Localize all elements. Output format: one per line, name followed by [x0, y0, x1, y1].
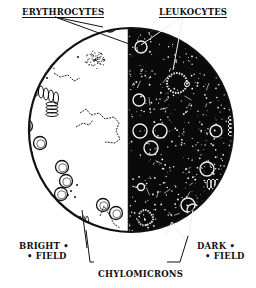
bright-field-chylomicron — [67, 194, 69, 196]
bright-field-rouleau — [64, 216, 67, 228]
bright-field-rouleau — [68, 216, 71, 228]
label-bright-field-2: • FIELD — [27, 252, 67, 261]
bright-field-rouleau — [29, 82, 34, 94]
label-dark-field-2: • FIELD — [205, 252, 245, 261]
erythrocytes-leader-2 — [55, 17, 132, 45]
microscope-field-diagram: ERYTHROCYTES LEUKOCYTES CHYLOMICRONS BRI… — [0, 0, 256, 288]
label-chylomicrons: CHYLOMICRONS — [98, 270, 183, 279]
bright-field-chylomicron — [46, 77, 48, 79]
bright-field-erythrocyte — [24, 170, 37, 183]
bright-field-strand — [76, 120, 93, 127]
label-leukocytes: LEUKOCYTES — [159, 8, 227, 18]
bright-field-chylomicron — [69, 38, 71, 40]
label-erythrocytes: ERYTHROCYTES — [22, 8, 104, 18]
bright-field-strand — [80, 109, 120, 143]
bright-field-chylomicron — [77, 56, 79, 58]
bright-field-rouleau — [44, 88, 49, 100]
dark-field-rouleau — [227, 179, 231, 189]
label-bright-field-1: BRIGHT • — [19, 242, 69, 251]
bright-field-chylomicron — [70, 190, 72, 192]
dark-field-rouleau — [223, 179, 227, 189]
chylomicrons-leader-left — [82, 210, 87, 248]
bright-field-strand — [54, 73, 80, 81]
bright-field-rouleau — [49, 90, 54, 102]
bright-field-chylomicron — [76, 184, 78, 186]
bright-field-chylomicron — [74, 196, 76, 198]
label-dark-field-1: DARK • — [197, 242, 235, 251]
bright-field-cells — [20, 20, 123, 228]
bright-field-rouleau — [71, 216, 74, 228]
